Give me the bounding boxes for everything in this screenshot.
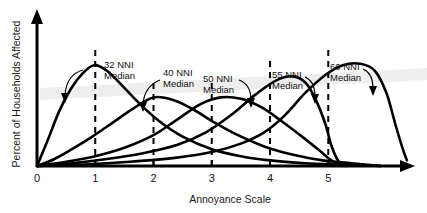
annotation-label-median: Median bbox=[104, 70, 135, 81]
y-axis-title: Percent of Households Affected bbox=[10, 20, 22, 167]
x-tick-label-4: 4 bbox=[267, 172, 273, 184]
annotation-label-nni: 60 NNI bbox=[330, 61, 360, 72]
x-axis-title: Annoyance Scale bbox=[189, 193, 271, 205]
annotation-label-median: Median bbox=[163, 78, 194, 89]
annotation-arrowhead bbox=[369, 86, 377, 96]
x-tick-label-1: 1 bbox=[92, 172, 98, 184]
x-tick-label-0: 0 bbox=[34, 172, 40, 184]
y-axis bbox=[31, 9, 43, 166]
chart-container: 012345 32 NNIMedian40 NNIMedian50 NNIMed… bbox=[0, 0, 427, 213]
annotation-label-median: Median bbox=[203, 84, 234, 95]
x-tick-label-2: 2 bbox=[150, 172, 156, 184]
annotation-label-nni: 50 NNI bbox=[203, 73, 233, 84]
annotation-label-nni: 55 NNI bbox=[272, 69, 302, 80]
annotation-label-median: Median bbox=[272, 80, 303, 91]
annotation-label-nni: 32 NNI bbox=[104, 59, 134, 70]
annotation-label-nni: 40 NNI bbox=[163, 67, 193, 78]
annotation-label-median: Median bbox=[330, 72, 361, 83]
annoyance-scale-chart: 012345 32 NNIMedian40 NNIMedian50 NNIMed… bbox=[0, 0, 427, 213]
x-tick-label-5: 5 bbox=[325, 172, 331, 184]
x-tick-label-3: 3 bbox=[209, 172, 215, 184]
x-axis-tick-labels: 012345 bbox=[34, 172, 331, 184]
